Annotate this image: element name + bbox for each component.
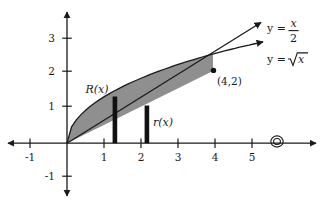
x-tick-label-4: 4	[212, 151, 219, 163]
y-tick-label-2: 2	[48, 65, 55, 77]
y-tick-label-3: 3	[48, 32, 55, 44]
y-tick-label--1: -1	[45, 170, 55, 182]
x-axis-tick-labels: -1 1 2 3 4 5	[25, 151, 255, 163]
math-figure: -1 1 2 3 4 5 3 2 1 -1 R(x) r(x) (4,2) y …	[0, 0, 324, 203]
x-tick-label-5: 5	[249, 151, 256, 163]
x-tick-label-3: 3	[175, 151, 182, 163]
line-curve-label-lhs: y =	[266, 22, 286, 35]
line-curve-label-numerator: x	[290, 17, 297, 30]
sqrt-curve-label-radicand: x	[298, 53, 305, 66]
x-tick-label-1: 1	[101, 151, 108, 163]
x-tick-label-2: 2	[138, 151, 145, 163]
circled-mark-icon	[271, 136, 283, 147]
x-tick-label--1: -1	[25, 151, 35, 163]
intersection-dot	[211, 68, 216, 73]
outer-radius-label: R(x)	[84, 83, 108, 96]
line-curve-label-denominator: 2	[290, 32, 297, 45]
line-curve-label: y = x 2	[266, 17, 299, 45]
inner-radius-label: r(x)	[153, 116, 173, 129]
y-tick-label-1: 1	[48, 100, 55, 112]
sqrt-curve-label: y = x	[266, 53, 308, 67]
figure-svg: -1 1 2 3 4 5 3 2 1 -1 R(x) r(x) (4,2) y …	[0, 0, 324, 203]
representative-bar-outer	[113, 97, 118, 144]
representative-bar-inner	[145, 106, 150, 144]
sqrt-curve-label-lhs: y =	[266, 53, 286, 66]
intersection-point-label: (4,2)	[217, 75, 242, 87]
y-axis-tick-labels: 3 2 1 -1	[45, 32, 55, 182]
